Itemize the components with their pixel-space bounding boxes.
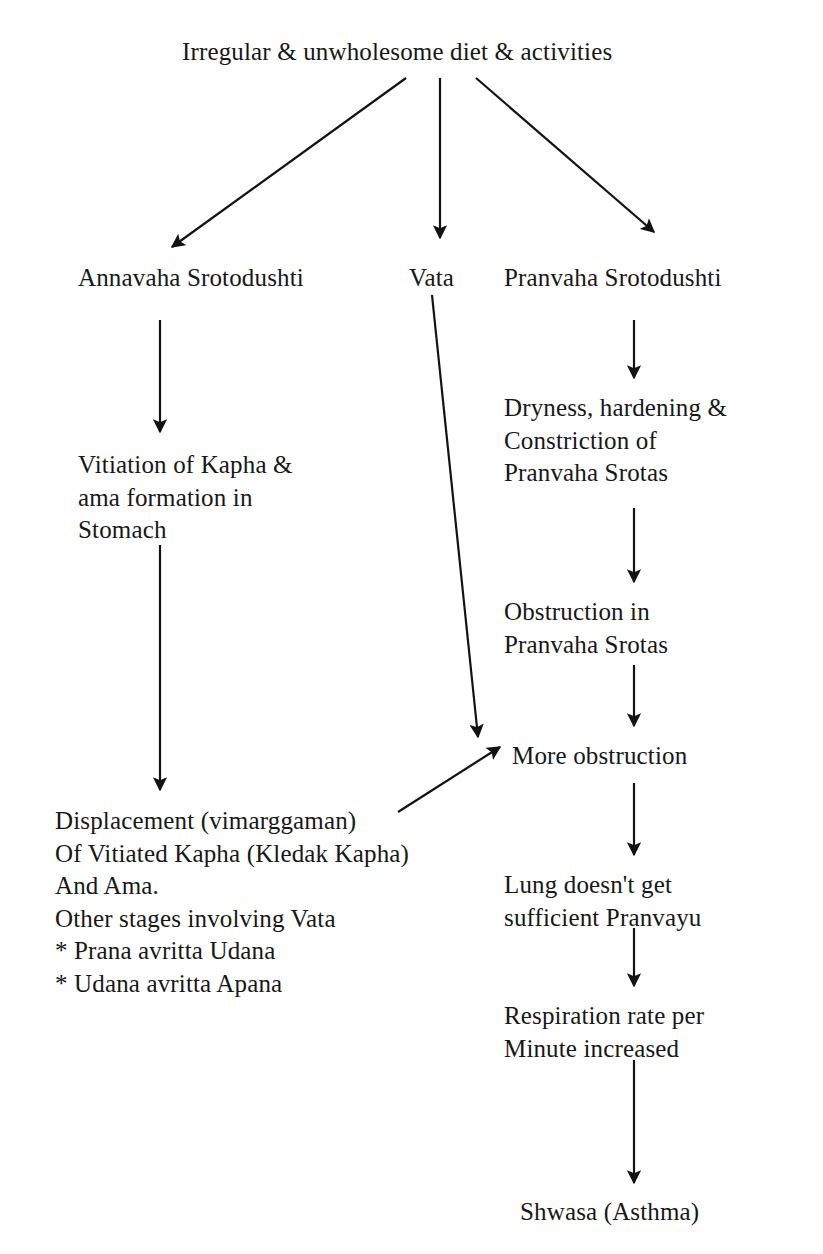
node-vitiation: Vitiation of Kapha & ama formation in St… (78, 449, 293, 547)
diagram-canvas: Irregular & unwholesome diet & activitie… (0, 0, 823, 1254)
node-vata: Vata (409, 262, 454, 295)
node-lung: Lung doesn't get sufficient Pranvayu (504, 869, 701, 934)
edge-layer (0, 0, 823, 1254)
node-displacement: Displacement (vimarggaman) Of Vitiated K… (55, 805, 409, 1000)
edge-displacement-to-more-obstruction (398, 747, 500, 812)
node-obstruction: Obstruction in Pranvaha Srotas (504, 596, 668, 661)
edge-vata-to-more-obstruction (432, 295, 478, 737)
node-dryness: Dryness, hardening & Constriction of Pra… (504, 392, 727, 490)
edge-root-to-pranvaha (476, 78, 654, 232)
node-more-obstruction: More obstruction (512, 740, 687, 773)
node-annavaha: Annavaha Srotodushti (78, 262, 304, 295)
node-root: Irregular & unwholesome diet & activitie… (182, 36, 612, 69)
node-pranvaha: Pranvaha Srotodushti (504, 262, 722, 295)
node-outcome: Shwasa (Asthma) (520, 1196, 699, 1229)
node-respiration: Respiration rate per Minute increased (504, 1000, 704, 1065)
edge-root-to-annavaha (172, 78, 406, 247)
